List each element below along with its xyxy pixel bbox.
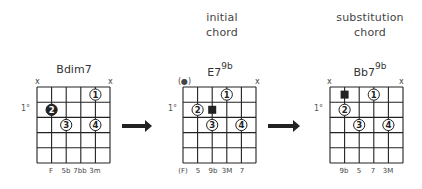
finger-number: 4: [238, 120, 244, 130]
arrow-right-icon: [268, 124, 294, 128]
finger-number: 2: [195, 105, 201, 115]
arrow-right-icon: [122, 124, 146, 128]
diagram-canvas: 123412341234: [0, 0, 422, 189]
finger-number: 2: [49, 105, 55, 115]
arrow-head-icon: [293, 120, 300, 132]
finger-number: 3: [63, 120, 69, 130]
finger-number: 1: [371, 90, 377, 100]
finger-number: 1: [224, 90, 230, 100]
note-square-marker: [341, 91, 349, 99]
finger-number: 2: [342, 105, 348, 115]
finger-number: 3: [356, 120, 362, 130]
finger-number: 4: [92, 120, 98, 130]
finger-number: 3: [209, 120, 215, 130]
finger-number: 1: [92, 90, 98, 100]
finger-number: 4: [385, 120, 391, 130]
arrow-head-icon: [145, 120, 152, 132]
note-square-marker: [208, 106, 216, 114]
